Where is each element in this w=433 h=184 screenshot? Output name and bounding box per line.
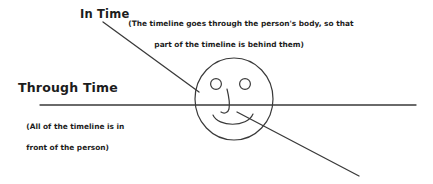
in-time-note-line-1: (The timeline goes through the person's … — [128, 19, 353, 28]
diagonal-timeline-lower-segment — [237, 112, 359, 176]
mouth — [213, 114, 253, 124]
through-time-label: Through Time — [18, 80, 118, 96]
right-eye — [240, 79, 251, 90]
left-eye — [211, 79, 222, 90]
nose — [221, 89, 229, 113]
face-circle — [195, 58, 273, 140]
in-time-note: (The timeline goes through the person's … — [118, 8, 330, 62]
through-time-note: (All of the timeline is in front of the … — [16, 111, 124, 165]
through-time-note-line-2: front of the person) — [26, 143, 109, 152]
through-time-note-line-1: (All of the timeline is in — [26, 122, 124, 131]
in-time-note-line-2: part of the timeline is behind them) — [154, 40, 304, 49]
diagram-canvas: In Time (The timeline goes through the p… — [0, 0, 433, 184]
